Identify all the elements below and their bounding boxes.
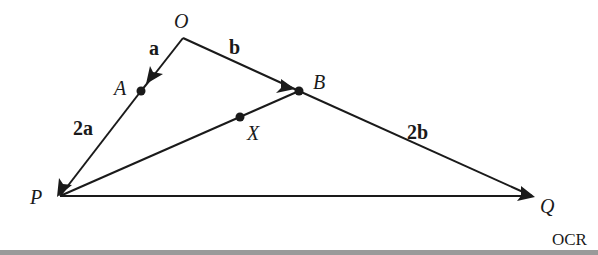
- footer-bar: [0, 250, 598, 255]
- source-credit: OCR: [552, 230, 587, 250]
- label-a: A: [114, 78, 126, 98]
- label-b: B: [313, 72, 325, 92]
- edge-label-b: b: [229, 37, 240, 57]
- edge-label-a: a: [149, 38, 159, 58]
- arrowhead-oa-icon: [146, 66, 163, 84]
- edge-label-2b: 2b: [407, 122, 428, 142]
- point-a: [137, 87, 146, 96]
- label-p: P: [30, 187, 42, 207]
- label-q: Q: [540, 196, 554, 216]
- arrowhead-bq-icon: [517, 186, 535, 201]
- edge-a-p: [60, 91, 141, 196]
- point-b: [295, 87, 304, 96]
- label-o: O: [174, 11, 188, 31]
- point-x: [236, 113, 245, 122]
- edge-b-q: [299, 91, 532, 196]
- edge-label-2a: 2a: [73, 118, 93, 138]
- label-x: X: [247, 123, 259, 143]
- edge-b-p: [60, 91, 299, 196]
